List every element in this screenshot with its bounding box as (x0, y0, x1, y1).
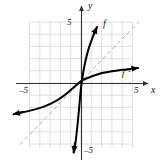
x-axis-label: x (151, 85, 155, 95)
curve-f-lower-arrow (74, 143, 75, 153)
curve-label-f-inverse: f–1 (122, 67, 131, 78)
graph-figure: y x f f–1 5 –5 –5 5 (0, 0, 163, 166)
coordinate-plot (0, 0, 163, 166)
tick-label-y-bottom: –5 (84, 146, 93, 155)
tick-label-y-top: 5 (67, 18, 72, 27)
tick-label-x-left: –5 (19, 86, 28, 95)
curve-f (74, 27, 97, 152)
tick-label-x-right: 5 (134, 86, 139, 95)
y-axis-label: y (88, 1, 92, 11)
curve-label-f: f (103, 19, 106, 29)
curve-label-f-inverse-exponent: –1 (125, 66, 132, 73)
curve-f-inverse-left-arrow (14, 112, 24, 114)
